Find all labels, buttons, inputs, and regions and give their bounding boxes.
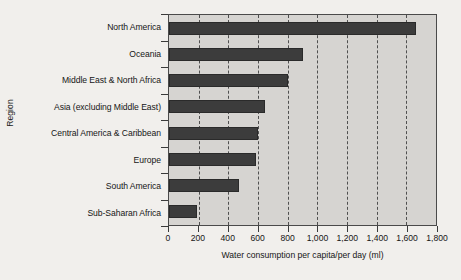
- bar-row: [169, 15, 436, 41]
- x-axis-title: Water consumption per capita/per day (ml…: [168, 250, 437, 260]
- bar-row: [169, 120, 436, 146]
- x-tick-mark: [258, 226, 259, 232]
- y-tick-mark: [161, 41, 168, 42]
- x-tick-label: 600: [250, 233, 264, 243]
- x-tick-label: 400: [221, 233, 235, 243]
- bar: [169, 179, 239, 192]
- bar-row: [169, 173, 436, 199]
- y-tick-mark: [161, 200, 168, 201]
- x-tick-label: 1,200: [337, 233, 359, 243]
- x-tick-label: 1,400: [366, 233, 388, 243]
- x-tick-label: 800: [280, 233, 294, 243]
- y-axis-title-text: Region: [5, 99, 15, 127]
- x-tick-mark: [168, 226, 169, 232]
- y-axis-tick-label: Central America & Caribbean: [16, 120, 165, 147]
- bar: [169, 22, 416, 35]
- x-tick-label: 0: [166, 233, 171, 243]
- y-tick-mark: [161, 147, 168, 148]
- x-tick-mark: [347, 226, 348, 232]
- x-tick-mark: [407, 226, 408, 232]
- y-axis-tick-labels: North AmericaOceaniaMiddle East & North …: [16, 14, 165, 226]
- y-tick-mark: [161, 226, 168, 227]
- y-tick-mark: [161, 67, 168, 68]
- bar: [169, 205, 197, 218]
- bar: [169, 153, 256, 166]
- y-axis-tick-label: South America: [16, 173, 165, 200]
- x-tick-mark: [228, 226, 229, 232]
- y-tick-mark: [161, 120, 168, 121]
- x-tick-mark: [377, 226, 378, 232]
- y-tick-mark: [161, 94, 168, 95]
- x-tick-label: 1,600: [396, 233, 418, 243]
- x-tick-mark: [198, 226, 199, 232]
- y-axis-tick-label: Europe: [16, 147, 165, 174]
- x-tick-label: 1,000: [307, 233, 329, 243]
- y-tick-mark: [161, 14, 168, 15]
- bar: [169, 127, 258, 140]
- y-axis-tick-label: Middle East & North Africa: [16, 67, 165, 94]
- x-tick-label: 200: [191, 233, 205, 243]
- bar-row: [169, 41, 436, 67]
- bar-row: [169, 94, 436, 120]
- x-tick-mark: [437, 226, 438, 232]
- bar-row: [169, 199, 436, 225]
- y-axis-tick-label: Sub-Saharan Africa: [16, 200, 165, 227]
- x-tick-mark: [317, 226, 318, 232]
- x-axis-tick-marks: [168, 226, 437, 233]
- x-tick-mark: [288, 226, 289, 232]
- plot-area: [168, 14, 437, 226]
- x-axis-tick-labels: 02004006008001,0001,2001,4001,6001,800: [168, 233, 437, 247]
- y-axis-tick-label: Oceania: [16, 41, 165, 68]
- bar-series: [169, 15, 436, 225]
- x-tick-label: 1,800: [426, 233, 448, 243]
- bar: [169, 74, 288, 87]
- bar: [169, 48, 303, 61]
- bar-chart-figure: Region North AmericaOceaniaMiddle East &…: [0, 0, 461, 280]
- y-axis-tick-label: Asia (excluding Middle East): [16, 94, 165, 121]
- bar: [169, 100, 265, 113]
- y-tick-mark: [161, 173, 168, 174]
- y-axis-tick-label: North America: [16, 14, 165, 41]
- bar-row: [169, 68, 436, 94]
- bar-row: [169, 146, 436, 172]
